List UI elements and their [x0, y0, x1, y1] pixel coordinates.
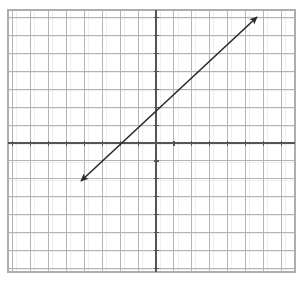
graph-canvas [0, 0, 303, 282]
coordinate-plane-figure [0, 0, 303, 282]
figure-background [0, 0, 303, 282]
